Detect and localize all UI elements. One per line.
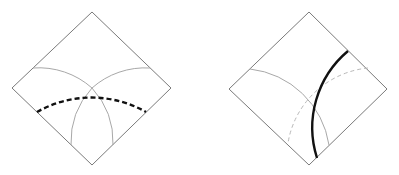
thin-arc (250, 69, 329, 145)
left-panel (12, 12, 171, 165)
thin-arc (92, 68, 150, 88)
right-thin-arcs (250, 69, 329, 145)
thin-arc (71, 88, 92, 145)
diagram-svg (0, 0, 399, 175)
diagram-canvas (0, 0, 399, 175)
thin-arc (33, 68, 92, 88)
right-panel (229, 12, 387, 165)
right-dashed-arcs (288, 68, 368, 143)
right-diamond (229, 12, 387, 165)
right-bold-arc (312, 51, 348, 158)
left-dashed-arc (37, 98, 146, 112)
dashed-thin-arc (288, 68, 368, 143)
